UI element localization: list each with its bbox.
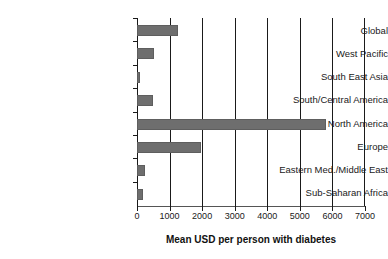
x-axis-title: Mean USD per person with diabetes xyxy=(137,234,365,245)
gridline-6000 xyxy=(332,18,333,206)
gridline-7000 xyxy=(364,18,365,206)
gridline-3000 xyxy=(235,18,236,206)
bar-eastern-med-middle-east xyxy=(137,165,145,176)
bar-global xyxy=(137,25,178,36)
bar-sub-saharan-africa xyxy=(137,189,143,200)
bar-europe xyxy=(137,142,201,153)
bar-north-america xyxy=(137,119,326,130)
bar-south-central-america xyxy=(137,95,153,106)
plot-area xyxy=(137,18,365,206)
bar-south-east-asia xyxy=(137,72,140,83)
gridline-1000 xyxy=(170,18,171,206)
x-tick-label: 7000 xyxy=(345,211,385,222)
bar-chart: Global West Pacific South East Asia Sout… xyxy=(0,0,388,259)
gridline-4000 xyxy=(267,18,268,206)
gridline-5000 xyxy=(300,18,301,206)
bar-west-pacific xyxy=(137,48,154,59)
gridline-2000 xyxy=(202,18,203,206)
